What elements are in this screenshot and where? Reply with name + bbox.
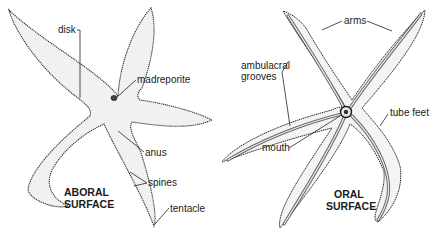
leader-arms-right <box>367 21 392 31</box>
aboral-surface-title-2: SURFACE <box>64 198 114 210</box>
label-spines: spines <box>148 177 177 188</box>
label-disk: disk <box>58 24 77 35</box>
leader-tube-feet <box>380 114 388 126</box>
leader-tentacle <box>155 208 169 224</box>
leader-arms-left <box>322 21 342 30</box>
oral-starfish <box>222 10 425 228</box>
aboral-starfish <box>9 8 212 226</box>
label-tentacle: tentacle <box>170 203 205 214</box>
leader-ambulacral <box>282 62 290 126</box>
aboral-starfish-body <box>9 8 212 226</box>
starfish-diagram: disk madreporite anus spines tentacle AB… <box>0 0 438 238</box>
madreporite-plate <box>111 95 117 100</box>
label-tube-feet: tube feet <box>390 107 429 118</box>
oral-surface-title-2: SURFACE <box>326 200 376 212</box>
label-mouth: mouth <box>262 142 290 153</box>
oral-surface-title-1: ORAL <box>334 188 364 200</box>
aboral-surface-title-1: ABORAL <box>64 186 109 198</box>
label-anus: anus <box>145 147 167 158</box>
label-arms: arms <box>344 15 366 26</box>
label-ambulacral-1: ambulacral <box>241 60 290 71</box>
label-ambulacral-2: grooves <box>241 71 277 82</box>
mouth-center <box>344 110 348 114</box>
label-madreporite: madreporite <box>137 74 191 85</box>
